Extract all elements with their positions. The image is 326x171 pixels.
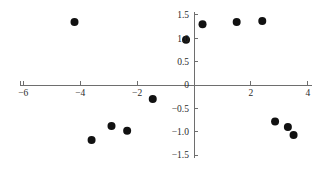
data-point-marker — [199, 20, 207, 28]
data-point-marker — [88, 136, 96, 144]
x-tick-label: 2 — [249, 88, 254, 98]
data-point-marker — [123, 127, 131, 135]
y-tick-label: 1.5 — [177, 10, 189, 20]
y-tick-label: 1.0 — [177, 34, 189, 44]
x-tick-label: −4 — [75, 88, 85, 98]
scatter-plot-figure: −6−4−224 1.51.00.50−0.5−1.0−1.5 — [0, 0, 326, 171]
data-point-marker — [271, 117, 279, 125]
data-point-marker — [71, 18, 79, 26]
y-tick-label: −1.5 — [172, 150, 189, 160]
y-tick-label: 0 — [184, 80, 189, 90]
x-tick-labels-group: −6−4−224 — [18, 88, 310, 98]
data-point-marker — [149, 95, 157, 103]
data-point-marker — [284, 123, 292, 131]
data-point-marker — [107, 122, 115, 130]
y-tick-label: −1.0 — [172, 127, 189, 137]
data-point-marker — [233, 18, 241, 26]
x-tick-label: −2 — [132, 88, 142, 98]
plot-canvas: −6−4−224 1.51.00.50−0.5−1.0−1.5 — [0, 0, 326, 171]
x-tick-label: 4 — [305, 88, 310, 98]
y-tick-label: −0.5 — [172, 104, 189, 114]
data-point-marker — [258, 17, 266, 25]
x-axis-group — [20, 81, 312, 85]
x-tick-label: −6 — [18, 88, 28, 98]
y-tick-label: 0.5 — [177, 57, 189, 67]
data-point-marker — [290, 131, 298, 139]
